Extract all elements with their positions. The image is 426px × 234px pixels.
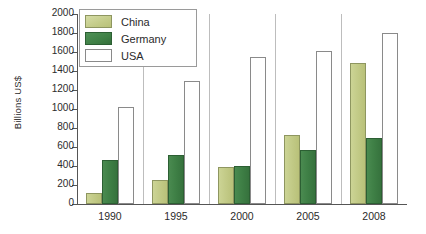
x-axis-tick-label: 2005	[275, 210, 341, 222]
x-axis-line	[77, 204, 407, 205]
bar-usa-2000	[250, 57, 266, 204]
group-separator	[341, 14, 342, 204]
bar-china-2008	[350, 63, 366, 204]
x-axis-tick-label: 1990	[77, 210, 143, 222]
bar-usa-2005	[316, 51, 332, 204]
legend-label-china: China	[121, 16, 150, 28]
y-axis-tick-label: 0	[34, 197, 74, 208]
legend-item-germany: Germany	[85, 30, 191, 47]
chart-legend: China Germany USA	[79, 9, 197, 67]
bar-germany-1990	[102, 160, 118, 204]
bar-china-2005	[284, 135, 300, 204]
bar-china-1995	[152, 180, 168, 204]
group-separator	[209, 14, 210, 204]
y-axis-tick-label: 400	[34, 159, 74, 170]
group-separator	[275, 14, 276, 204]
y-axis-tick-label: 200	[34, 178, 74, 189]
x-axis-tick-label: 2008	[341, 210, 407, 222]
legend-swatch-usa-icon	[85, 49, 112, 62]
y-axis-tick-label: 2000	[34, 7, 74, 18]
y-axis-line	[77, 14, 78, 204]
bar-germany-2000	[234, 166, 250, 204]
y-axis-title: Billions US$	[12, 53, 23, 153]
legend-item-china: China	[85, 13, 191, 30]
legend-label-germany: Germany	[121, 33, 166, 45]
x-axis-tick-label: 1995	[143, 210, 209, 222]
legend-label-usa: USA	[121, 50, 144, 62]
bar-germany-2008	[366, 138, 382, 205]
y-axis-tick-label: 600	[34, 140, 74, 151]
bar-germany-1995	[168, 155, 184, 204]
legend-swatch-germany-icon	[85, 32, 112, 45]
y-axis-tick-label: 1400	[34, 64, 74, 75]
bar-chart: Billions US$ 020040060080010001200140016…	[0, 0, 426, 234]
y-axis-tick-label: 1800	[34, 26, 74, 37]
bar-china-2000	[218, 167, 234, 204]
bar-usa-1990	[118, 107, 134, 204]
legend-swatch-china-icon	[85, 15, 112, 28]
legend-item-usa: USA	[85, 47, 191, 64]
y-axis-tick-label: 1600	[34, 45, 74, 56]
y-axis-tick-label: 800	[34, 121, 74, 132]
bar-usa-1995	[184, 81, 200, 205]
bar-usa-2008	[382, 33, 398, 204]
x-axis-tick-label: 2000	[209, 210, 275, 222]
y-axis-tick-label: 1200	[34, 83, 74, 94]
bar-germany-2005	[300, 150, 316, 204]
bar-china-1990	[86, 193, 102, 204]
y-axis-tick-label: 1000	[34, 102, 74, 113]
